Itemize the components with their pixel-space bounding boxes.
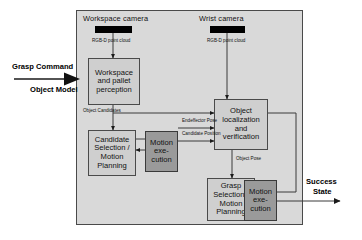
workspace-camera-label: Workspace camera xyxy=(83,14,148,23)
node-workspace-perception[interactable]: Workspace and pallet perception xyxy=(88,58,140,105)
edge-line: Candidate xyxy=(182,131,203,136)
edge-line: point cloud xyxy=(223,38,245,43)
node-motion-execution-right[interactable]: Motion exe- cution xyxy=(244,180,277,221)
node-line: Planning xyxy=(94,162,129,171)
edge-label-endeffector-pose: Endeffector Pose xyxy=(182,118,217,123)
wrist-camera-icon xyxy=(210,26,245,33)
edge-label-rgbd-workspace: RGB-D point cloud xyxy=(92,38,130,43)
node-line: cution xyxy=(249,205,272,214)
edge-line: Candidates xyxy=(98,108,121,113)
edge-label-candidate-position: Candidate Position xyxy=(182,131,221,136)
edge-line: Endeffector xyxy=(182,118,205,123)
node-candidate-selection[interactable]: Candidate Selection / Motion Planning xyxy=(88,130,136,176)
output-label-state: State xyxy=(313,187,332,196)
output-label-success: Success xyxy=(306,177,337,186)
input-label-grasp-command: Grasp Command xyxy=(12,62,73,71)
edge-line: Pose xyxy=(207,118,217,123)
diagram-canvas: Workspace camera Wrist camera xyxy=(0,0,362,240)
edge-line: Position xyxy=(204,131,220,136)
node-line: verification xyxy=(222,133,260,142)
node-motion-execution-left[interactable]: Motion exe- cution xyxy=(145,131,178,172)
workspace-camera-icon xyxy=(95,26,132,33)
edge-line: Object xyxy=(236,156,249,161)
node-line: perception xyxy=(95,86,133,95)
edge-label-object-candidates: Object Candidates xyxy=(83,108,121,113)
edge-label-rgbd-wrist: RGB-D point cloud xyxy=(207,38,245,43)
edge-line: Pose xyxy=(251,156,261,161)
node-line: cution xyxy=(150,156,173,165)
node-object-localization[interactable]: Object localization and verification xyxy=(214,99,268,150)
edge-label-object-pose: Object Pose xyxy=(236,156,261,161)
input-label-object-model: Object Model xyxy=(30,85,78,94)
edge-line: Object xyxy=(83,108,96,113)
edge-line: RGB-D xyxy=(207,38,222,43)
edge-line: point cloud xyxy=(108,38,130,43)
edge-line: RGB-D xyxy=(92,38,107,43)
wrist-camera-label: Wrist camera xyxy=(199,14,244,23)
